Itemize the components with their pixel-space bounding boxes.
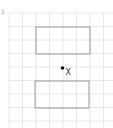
grid-diagram: X: [0, 0, 113, 128]
point-x: [61, 66, 65, 70]
grid: [9, 13, 113, 128]
point-label: X: [66, 68, 72, 77]
lower-rectangle: [35, 81, 89, 108]
